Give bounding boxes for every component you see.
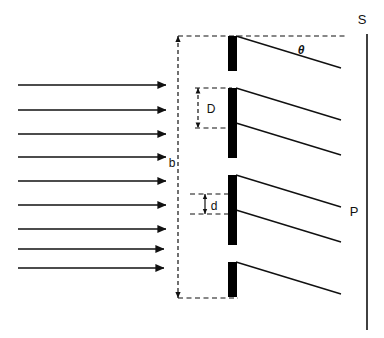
dimension-b-label: b <box>169 156 176 170</box>
grating-bars <box>228 36 237 297</box>
figure-canvas: b D d <box>0 0 384 338</box>
grating-bar <box>228 88 237 123</box>
dimension-D-arrow-bottom <box>196 123 201 129</box>
incident-beam-arrows <box>18 85 166 268</box>
grating-bar <box>228 210 237 245</box>
diffraction-grating-figure: b D d <box>0 0 384 338</box>
diffracted-ray <box>236 175 341 207</box>
diffracted-ray <box>236 36 341 68</box>
diffracted-ray <box>236 262 341 294</box>
diffracted-ray <box>236 88 341 120</box>
diffracted-rays <box>236 36 341 294</box>
dimension-d-arrow-top <box>203 194 207 199</box>
dimension-D-label: D <box>207 102 216 116</box>
grating-bar <box>228 262 237 297</box>
dimension-b-arrow-top <box>175 36 180 42</box>
grating-bar <box>228 175 237 210</box>
grating-bar <box>228 36 237 71</box>
dimension-d-arrow-bottom <box>203 209 207 214</box>
grating-bar <box>228 123 237 158</box>
dimension-d-label: d <box>211 199 218 213</box>
dimension-b <box>175 36 345 298</box>
screen-label-P: P <box>350 204 359 219</box>
dimension-D-arrow-top <box>196 88 201 94</box>
diffracted-ray <box>236 210 341 242</box>
diffracted-ray <box>236 123 341 155</box>
screen-top-label-S: S <box>358 12 367 27</box>
angle-theta-label: θ <box>298 43 305 57</box>
dimension-b-arrow-bottom <box>175 292 180 298</box>
